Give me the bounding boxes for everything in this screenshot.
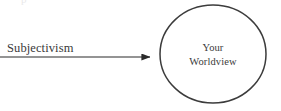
source-label-subjectivism: Subjectivism [7,41,74,55]
ghost-text-remnant: p [21,0,27,5]
worldview-label-line-2: Worldview [189,56,237,67]
diagram-canvas: p Subjectivism Your Worldview [0,0,281,111]
worldview-label-line-1: Your [203,42,224,53]
worldview-circle [160,5,266,103]
diagram-svg: p Subjectivism Your Worldview [0,0,281,111]
